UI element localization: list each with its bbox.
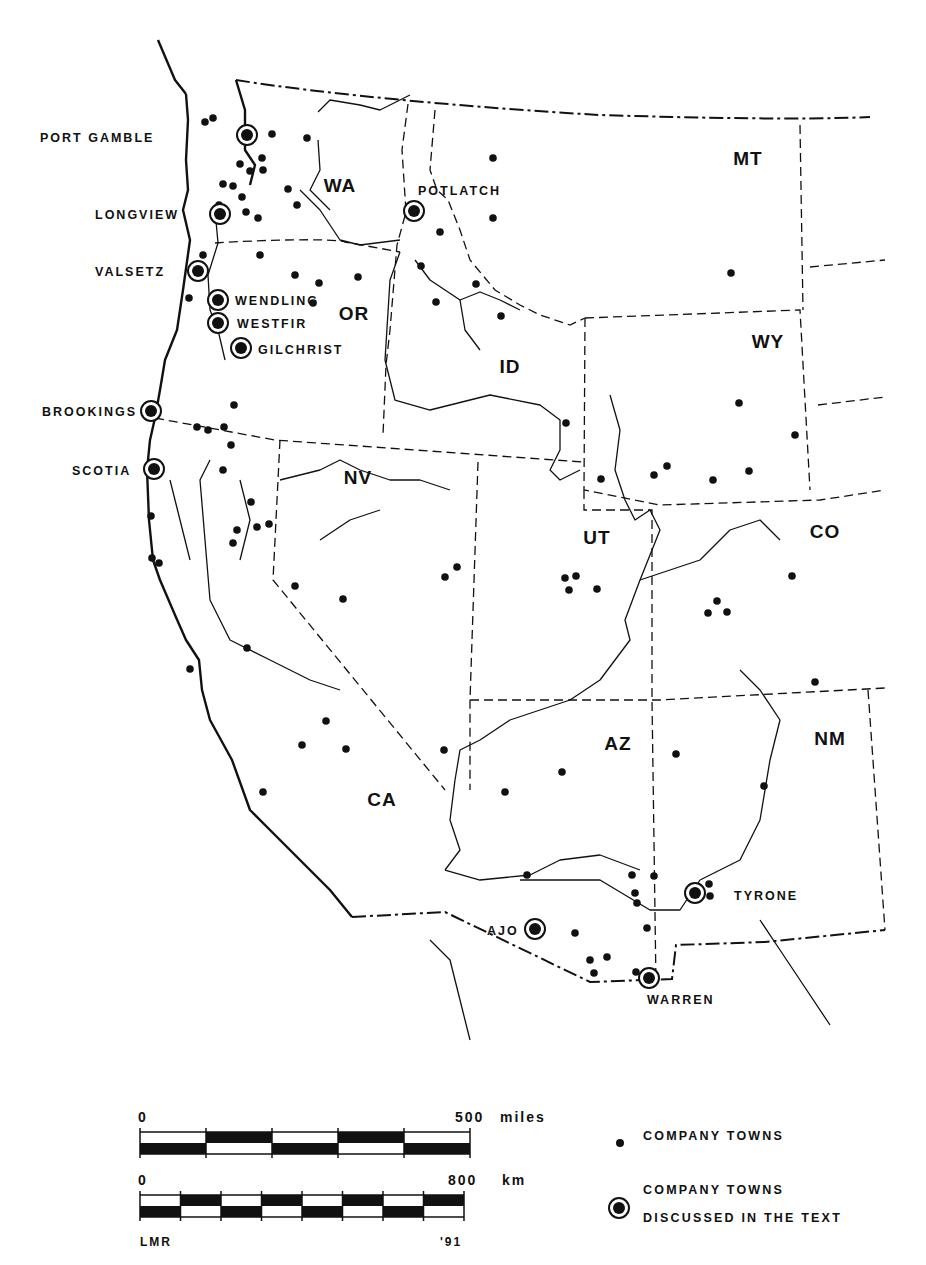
company-town-dot — [259, 166, 267, 174]
company-town-dot — [597, 475, 605, 483]
scale-km-end: 800 — [448, 1172, 477, 1188]
scale-miles-unit: miles — [500, 1109, 546, 1125]
company-town-dot — [709, 476, 717, 484]
town-label-brookings: BROOKINGS — [42, 405, 137, 419]
company-town-dot — [220, 423, 228, 431]
company-town-dot — [259, 788, 267, 796]
company-town-dot — [284, 185, 292, 193]
company-town-dot — [342, 745, 350, 753]
scale-km-unit: km — [502, 1172, 526, 1188]
state-labels: WAORIDMTWYNVUTCOCAAZNM — [324, 148, 846, 810]
company-town-dot — [291, 271, 299, 279]
company-town-dot — [441, 573, 449, 581]
company-town-dot — [204, 426, 212, 434]
company-town-dot — [663, 462, 671, 470]
credit-right: '91 — [440, 1235, 462, 1249]
company-town-dot — [650, 471, 658, 479]
company-town-dot — [315, 279, 323, 287]
company-town-dot — [230, 401, 238, 409]
legend-label-discussed-line2: DISCUSSED IN THE TEXT — [643, 1211, 842, 1225]
company-town-dot — [565, 586, 573, 594]
town-label-gilchrist: GILCHRIST — [258, 343, 343, 357]
discussed-town-gilchrist: GILCHRIST — [231, 338, 343, 358]
company-town-dot — [672, 750, 680, 758]
discussed-town-port-gamble: PORT GAMBLE — [40, 125, 257, 145]
scale-miles-start: 0 — [138, 1109, 148, 1125]
company-town-dot — [219, 180, 227, 188]
state-label-id: ID — [500, 356, 521, 377]
company-town-dot — [497, 312, 505, 320]
state-label-az: AZ — [604, 733, 631, 754]
company-town-dot — [562, 419, 570, 427]
company-town-dot — [322, 717, 330, 725]
legend-label-discussed-line1: COMPANY TOWNS — [643, 1183, 784, 1197]
company-town-dot — [219, 466, 227, 474]
company-town-dot — [432, 298, 440, 306]
company-town-dot — [193, 423, 201, 431]
discussed-town-brookings: BROOKINGS — [42, 401, 161, 421]
company-town-dot — [558, 768, 566, 776]
state-label-or: OR — [339, 303, 370, 324]
company-town-dot — [603, 953, 611, 961]
company-town-dot — [633, 899, 641, 907]
company-town-dot — [489, 154, 497, 162]
company-town-dot — [501, 788, 509, 796]
company-town-dot — [186, 665, 194, 673]
company-town-dot — [243, 644, 251, 652]
company-town-dot — [791, 431, 799, 439]
company-town-dot — [628, 871, 636, 879]
company-town-dot — [253, 523, 261, 531]
state-label-ca: CA — [367, 789, 396, 810]
company-town-dot — [256, 251, 264, 259]
company-town-dot — [242, 208, 250, 216]
company-town-dot — [258, 154, 266, 162]
company-town-dot — [268, 130, 276, 138]
state-label-nv: NV — [344, 467, 372, 488]
company-town-dots — [147, 114, 819, 977]
company-town-dot — [811, 678, 819, 686]
company-town-dot — [523, 871, 531, 879]
company-town-dot — [236, 160, 244, 168]
company-town-dot — [417, 262, 425, 270]
company-town-dot — [339, 595, 347, 603]
discussed-town-potlatch: POTLATCH — [404, 184, 501, 221]
state-label-nm: NM — [814, 728, 846, 749]
company-town-dot — [727, 269, 735, 277]
company-town-dot — [440, 746, 448, 754]
company-town-dot — [303, 134, 311, 142]
legend: COMPANY TOWNS COMPANY TOWNS DISCUSSED IN… — [609, 1129, 842, 1225]
discussed-town-longview: LONGVIEW — [95, 204, 230, 224]
company-town-dot — [148, 554, 156, 562]
town-label-valsetz: VALSETZ — [95, 265, 165, 279]
company-town-dot — [265, 520, 273, 528]
legend-dot-icon — [616, 1139, 624, 1147]
company-town-dot — [291, 582, 299, 590]
company-town-dot — [571, 929, 579, 937]
company-town-dot — [643, 924, 651, 932]
company-town-dot — [229, 182, 237, 190]
state-boundaries — [155, 104, 885, 985]
company-town-dot — [713, 597, 721, 605]
town-label-westfir: WESTFIR — [237, 317, 307, 331]
discussed-town-ajo: AJO — [487, 919, 545, 939]
company-town-dot — [298, 741, 306, 749]
scale-bar-miles: 0 500 miles — [138, 1109, 546, 1158]
scale-km-start: 0 — [138, 1172, 148, 1188]
discussed-town-warren: WARREN — [639, 968, 715, 1007]
company-town-dot — [723, 608, 731, 616]
company-town-dot — [706, 892, 714, 900]
state-label-wy: WY — [752, 331, 785, 352]
company-town-dot — [199, 251, 207, 259]
legend-ringed-dot-icon — [609, 1198, 629, 1218]
company-town-dot — [229, 539, 237, 547]
discussed-town-scotia: SCOTIA — [72, 459, 164, 479]
legend-label-company-towns: COMPANY TOWNS — [643, 1129, 784, 1143]
company-town-dot — [735, 399, 743, 407]
company-town-dot — [147, 512, 155, 520]
rivers — [170, 95, 830, 1040]
town-label-warren: WARREN — [647, 993, 715, 1007]
company-town-dot — [293, 201, 301, 209]
map-canvas: WAORIDMTWYNVUTCOCAAZNM PORT GAMBLELONGVI… — [0, 0, 926, 1265]
state-label-co: CO — [810, 521, 841, 542]
town-label-potlatch: POTLATCH — [418, 184, 501, 198]
